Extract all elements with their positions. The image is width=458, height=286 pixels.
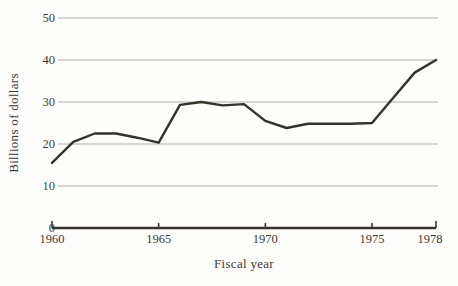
y-tick-label-50: 50 [43,11,56,25]
x-tick-label-1960: 1960 [40,232,65,246]
y-tick-label-30: 30 [43,95,56,109]
chart-figure: 0102030405019601965197019751978 Billions… [0,0,458,286]
x-tick-label-1975: 1975 [360,232,385,246]
y-tick-label-10: 10 [43,179,56,193]
chart-svg: 0102030405019601965197019751978 [0,0,458,286]
y-axis-title: Billions of dollars [6,73,22,173]
x-tick-label-1970: 1970 [253,232,278,246]
x-axis-title: Fiscal year [214,256,274,272]
y-tick-label-40: 40 [43,53,56,67]
x-tick-label-1965: 1965 [146,232,171,246]
y-tick-label-20: 20 [43,137,56,151]
x-tick-label-1978: 1978 [418,232,443,246]
data-line [52,60,436,163]
